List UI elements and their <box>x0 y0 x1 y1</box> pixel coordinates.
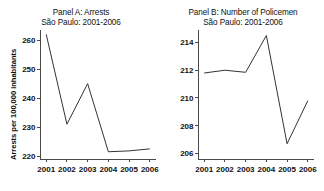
x-tick-label: 2004 <box>257 165 275 174</box>
y-tick-label: 206 <box>180 149 194 158</box>
x-tick-label: 2004 <box>99 165 117 174</box>
panel-b-svg: 206208210212214200120022003200420052006 <box>162 0 324 191</box>
y-tick-label: 240 <box>22 94 36 103</box>
panel-a-plot-area: 220230240250260200120022003200420052006 <box>0 0 162 191</box>
x-tick-label: 2001 <box>195 165 213 174</box>
x-tick-label: 2005 <box>120 165 138 174</box>
x-tick-label: 2002 <box>58 165 76 174</box>
x-tick-label: 2006 <box>141 165 159 174</box>
y-tick-label: 214 <box>180 38 194 47</box>
y-tick-label: 260 <box>22 36 36 45</box>
y-tick-label: 212 <box>180 66 194 75</box>
figure-two-panel-line-charts: Panel A: Arrests São Paulo: 2001-2006 Ar… <box>0 0 324 191</box>
y-tick-label: 210 <box>180 94 194 103</box>
x-tick-label: 2002 <box>216 165 234 174</box>
x-tick-label: 2003 <box>79 165 97 174</box>
panel-b-plot-area: 206208210212214200120022003200420052006 <box>162 0 324 191</box>
data-series-line <box>46 34 150 151</box>
y-tick-label: 250 <box>22 65 36 74</box>
y-tick-label: 208 <box>180 122 194 131</box>
panel-a-svg: 220230240250260200120022003200420052006 <box>0 0 162 191</box>
panel-b-policemen: Panel B: Number of Policemen São Paulo: … <box>162 0 324 191</box>
y-tick-label: 220 <box>22 152 36 161</box>
x-tick-label: 2005 <box>278 165 296 174</box>
x-tick-label: 2006 <box>299 165 317 174</box>
panel-a-arrests: Panel A: Arrests São Paulo: 2001-2006 Ar… <box>0 0 162 191</box>
data-series-line <box>204 36 308 144</box>
x-tick-label: 2003 <box>237 165 255 174</box>
y-tick-label: 230 <box>22 123 36 132</box>
x-tick-label: 2001 <box>37 165 55 174</box>
